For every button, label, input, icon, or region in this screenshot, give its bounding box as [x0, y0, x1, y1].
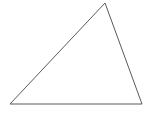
geometry-figure-canvas	[0, 0, 153, 113]
triangle-svg	[0, 0, 153, 113]
figure-background	[0, 0, 153, 113]
